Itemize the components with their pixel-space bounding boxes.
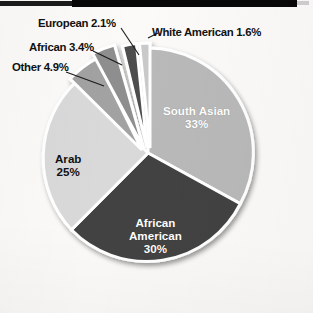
slice-label-arab-pct: 25% [55, 165, 81, 178]
slice-label-south-asian: South Asian 33% [163, 104, 230, 130]
slice-label-african-american-name-line1: African [135, 216, 175, 229]
slice-label-south-asian-name: South Asian [163, 104, 230, 117]
slice-label-south-asian-pct: 33% [163, 117, 230, 130]
slice-label-african-american-pct: 30% [129, 242, 182, 255]
slice-label-arab-name: Arab [55, 152, 81, 165]
slice-label-african-american-name-line2: American [129, 229, 182, 242]
slice-label-arab: Arab 25% [55, 152, 81, 178]
slice-label-african-american: African American 30% [129, 216, 182, 255]
callout-european: European 2.1% [38, 18, 116, 29]
callout-white-american: White American 1.6% [152, 27, 261, 38]
callout-other: Other 4.9% [12, 62, 69, 73]
callout-african: African 3.4% [29, 42, 94, 53]
pie-chart-figure: European 2.1% White American 1.6% Africa… [0, 0, 313, 313]
